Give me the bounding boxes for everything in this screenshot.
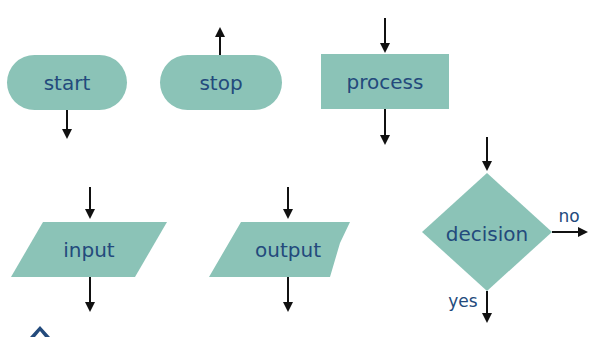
process-label: process (347, 70, 424, 94)
input-label: input (63, 238, 115, 262)
no-label: no (558, 206, 579, 226)
stop-terminator: stop (160, 32, 282, 110)
stop-label: stop (199, 71, 242, 95)
yes-label: yes (448, 291, 478, 311)
flowchart-symbols-diagram: start stop process input output decision… (0, 0, 601, 337)
process-box: process (321, 18, 449, 140)
output-label: output (255, 238, 321, 262)
decision-label: decision (446, 222, 528, 246)
decision-diamond: decision no yes (422, 137, 583, 318)
start-label: start (44, 71, 91, 95)
start-terminator: start (7, 55, 127, 134)
input-parallelogram: input (11, 187, 167, 307)
output-parallelogram: output (209, 187, 350, 307)
corner-marker-icon (30, 326, 50, 337)
